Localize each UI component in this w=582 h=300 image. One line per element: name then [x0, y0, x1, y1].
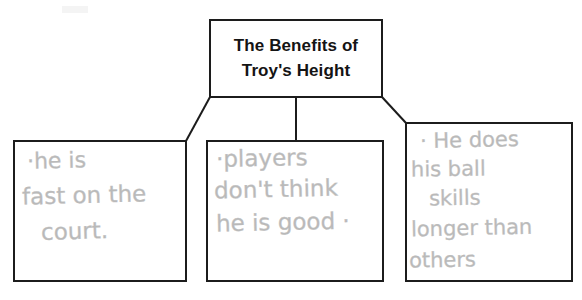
title-line-2: Troy's Height [242, 59, 350, 83]
detail-box-middle: ·players don't think he is good · [206, 140, 384, 282]
handwriting-line: · He does [420, 127, 519, 153]
worksheet-page: The Benefits of Troy's Height ·he is fas… [0, 0, 582, 300]
connector-left [186, 97, 210, 141]
handwritten-note-left: ·he is fast on the court. [15, 142, 185, 280]
detail-box-right: · He does his ball skills longer than ot… [405, 122, 573, 282]
handwriting-line: fast on the [22, 180, 147, 209]
title-line-1: The Benefits of [234, 34, 358, 58]
handwriting-line: his ball [411, 156, 486, 181]
handwriting-line: longer than [411, 215, 533, 242]
handwritten-note-right: · He does his ball skills longer than ot… [407, 124, 571, 280]
handwriting-line: others [409, 247, 476, 272]
handwriting-line: don't think [214, 174, 338, 203]
handwriting-line: he is good · [216, 208, 350, 237]
connector-right [382, 97, 406, 123]
handwriting-line: skills [429, 186, 481, 211]
handwriting-line: ·players [216, 144, 308, 172]
detail-box-left: ·he is fast on the court. [13, 140, 187, 282]
handwritten-note-middle: ·players don't think he is good · [208, 142, 382, 280]
handwriting-line: ·he is [27, 147, 87, 173]
handwriting-line: court. [41, 217, 109, 245]
title-box: The Benefits of Troy's Height [209, 19, 383, 98]
